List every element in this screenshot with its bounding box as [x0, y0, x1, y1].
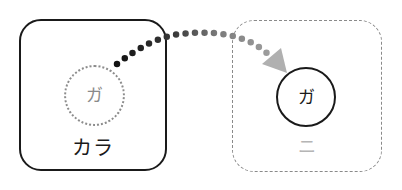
- connector-arrow: [0, 0, 402, 190]
- connector-dotted-path: [117, 33, 270, 64]
